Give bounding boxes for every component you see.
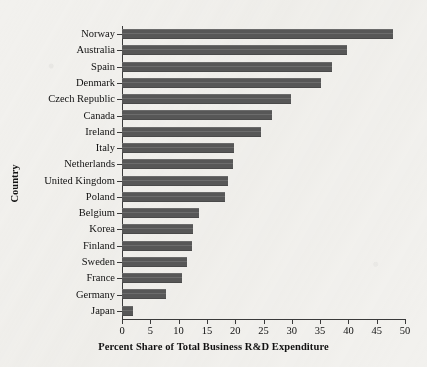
bar: [122, 29, 393, 39]
y-axis-tick: [117, 67, 122, 68]
bar: [122, 45, 347, 55]
y-axis-category-label: Australia: [77, 44, 116, 55]
bar: [122, 127, 261, 137]
y-axis-title: Country: [8, 0, 22, 367]
bar-row: [122, 42, 405, 58]
bar-row: [122, 26, 405, 42]
x-axis-tick-label: 25: [251, 325, 277, 337]
x-axis-tick: [320, 319, 321, 324]
bar: [122, 224, 193, 234]
x-axis-tick: [377, 319, 378, 324]
y-axis-tick: [117, 99, 122, 100]
y-axis-tick: [117, 164, 122, 165]
bar-row: [122, 303, 405, 319]
x-axis-tick: [348, 319, 349, 324]
x-axis-tick: [179, 319, 180, 324]
y-axis-tick: [117, 213, 122, 214]
y-axis-category-label: Japan: [91, 305, 115, 316]
bar: [122, 176, 228, 186]
y-axis-category-label: Denmark: [76, 77, 115, 88]
bar: [122, 273, 182, 283]
y-axis-category-label: Belgium: [79, 207, 115, 218]
x-axis-tick: [235, 319, 236, 324]
y-axis-tick: [117, 34, 122, 35]
plot-area: [122, 26, 405, 319]
bar-row: [122, 59, 405, 75]
x-axis-tick: [122, 319, 123, 324]
y-axis-category-label: United Kingdom: [44, 175, 115, 186]
bar: [122, 62, 332, 72]
x-axis-tick-label: 30: [279, 325, 305, 337]
x-axis-tick-label: 40: [335, 325, 361, 337]
y-axis-tick: [117, 50, 122, 51]
y-axis-category-label: Ireland: [85, 126, 115, 137]
bar-row: [122, 75, 405, 91]
y-axis-category-label: Czech Republic: [48, 93, 115, 104]
bar-row: [122, 156, 405, 172]
y-axis-title-text: Country: [10, 165, 21, 203]
bar: [122, 241, 192, 251]
x-axis-tick-label: 50: [392, 325, 418, 337]
x-axis-tick: [405, 319, 406, 324]
x-axis-tick-label: 5: [137, 325, 163, 337]
bar-row: [122, 173, 405, 189]
x-axis-tick-label: 35: [307, 325, 333, 337]
x-axis-tick-label: 20: [222, 325, 248, 337]
y-axis-category-label: Germany: [76, 289, 115, 300]
bar-row: [122, 140, 405, 156]
y-axis-tick: [117, 262, 122, 263]
bar: [122, 159, 233, 169]
bar-row: [122, 270, 405, 286]
bar-row: [122, 254, 405, 270]
x-axis-title: Percent Share of Total Business R&D Expe…: [0, 341, 427, 352]
y-axis-category-label: Spain: [91, 61, 115, 72]
bar-row: [122, 286, 405, 302]
y-axis-tick: [117, 311, 122, 312]
bar-row: [122, 107, 405, 123]
y-axis-category-label: Poland: [86, 191, 115, 202]
y-axis-category-label: Canada: [84, 110, 116, 121]
y-axis-category-label: Korea: [89, 223, 115, 234]
horizontal-bar-chart: NorwayAustraliaSpainDenmarkCzech Republi…: [0, 0, 427, 367]
bar: [122, 78, 321, 88]
bar-row: [122, 238, 405, 254]
bar-row: [122, 91, 405, 107]
x-axis-tick-label: 45: [364, 325, 390, 337]
y-axis-tick: [117, 295, 122, 296]
y-axis-tick: [117, 148, 122, 149]
y-axis-category-label: Sweden: [82, 256, 115, 267]
y-axis-category-label: Norway: [81, 28, 115, 39]
bar: [122, 143, 234, 153]
bar-row: [122, 189, 405, 205]
x-axis-tick-label: 15: [194, 325, 220, 337]
bar-row: [122, 205, 405, 221]
x-axis-tick: [207, 319, 208, 324]
bar: [122, 192, 225, 202]
y-axis-tick: [117, 132, 122, 133]
x-axis-tick-label: 0: [109, 325, 135, 337]
bar: [122, 94, 291, 104]
bar: [122, 257, 187, 267]
bar-row: [122, 124, 405, 140]
x-axis-tick: [292, 319, 293, 324]
x-axis-tick: [264, 319, 265, 324]
bar: [122, 110, 272, 120]
x-axis-tick-label: 10: [166, 325, 192, 337]
bar: [122, 306, 133, 316]
y-axis-category-label: Netherlands: [64, 158, 115, 169]
y-axis-tick: [117, 83, 122, 84]
bar: [122, 289, 166, 299]
y-axis-tick: [117, 229, 122, 230]
x-axis-tick: [150, 319, 151, 324]
y-axis-tick: [117, 246, 122, 247]
y-axis-category-label: Italy: [96, 142, 115, 153]
y-axis-tick: [117, 116, 122, 117]
y-axis-tick: [117, 181, 122, 182]
y-axis-tick: [117, 197, 122, 198]
y-axis-category-label: Finland: [83, 240, 115, 251]
y-axis-category-label: France: [86, 272, 115, 283]
bar: [122, 208, 199, 218]
bar-row: [122, 221, 405, 237]
y-axis-tick: [117, 278, 122, 279]
